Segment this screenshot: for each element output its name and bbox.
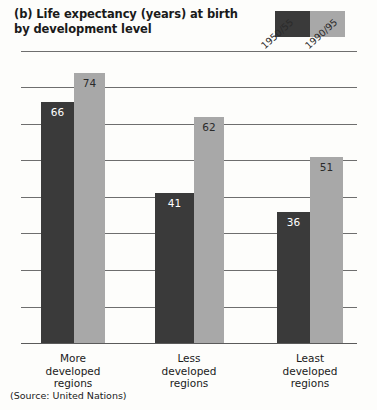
category-label-line-2: developed (255, 365, 365, 378)
bar-less-developed-regions-1950-55: 41 (155, 193, 194, 343)
plot-area: 667441623651 (21, 55, 357, 348)
gridline-70 (21, 87, 357, 88)
bar-least-developed-regions-1990-95: 51 (310, 157, 343, 343)
gridline-80 (21, 51, 357, 52)
category-label-least-developed-regions: Leastdevelopedregions (255, 352, 365, 390)
bar-less-developed-regions-1990-95: 62 (194, 117, 224, 344)
bar-value-label: 41 (155, 197, 194, 209)
category-label-line-1: Less (134, 352, 244, 365)
category-label-line-3: regions (18, 377, 128, 390)
category-label-line-2: developed (134, 365, 244, 378)
bar-more-developed-regions-1990-95: 74 (74, 73, 105, 343)
bar-value-label: 51 (310, 161, 343, 173)
category-label-more-developed-regions: Moredevelopedregions (18, 352, 128, 390)
category-label-line-1: Least (255, 352, 365, 365)
category-label-line-1: More (18, 352, 128, 365)
bar-least-developed-regions-1950-55: 36 (277, 212, 310, 344)
chart-figure: (b) Life expectancy (years) at birth by … (0, 0, 377, 410)
chart-title-line-1: (b) Life expectancy (years) at birth (14, 7, 254, 22)
bar-value-label: 62 (194, 121, 224, 133)
bar-value-label: 36 (277, 216, 310, 228)
category-label-less-developed-regions: Lessdevelopedregions (134, 352, 244, 390)
category-label-line-3: regions (255, 377, 365, 390)
source-note: (Source: United Nations) (10, 390, 127, 401)
bar-value-label: 66 (41, 106, 74, 118)
chart-title: (b) Life expectancy (years) at birth by … (14, 7, 254, 36)
bar-more-developed-regions-1950-55: 66 (41, 102, 74, 343)
category-label-line-3: regions (134, 377, 244, 390)
bar-value-label: 74 (74, 77, 105, 89)
x-axis-baseline (21, 343, 357, 344)
chart-title-line-2: by development level (14, 22, 254, 37)
category-label-line-2: developed (18, 365, 128, 378)
